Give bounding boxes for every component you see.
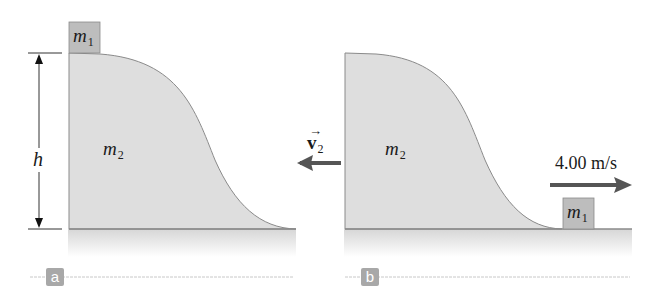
vector-arrow-icon: → <box>309 123 322 139</box>
height-arrow-down-icon <box>35 218 43 228</box>
velocity-block-arrow-icon <box>550 177 632 193</box>
block-m1-label-b: m1 <box>567 201 588 223</box>
ground-shade-a <box>68 229 296 257</box>
wedge-m2-b <box>345 53 562 229</box>
height-arrow-up-icon <box>35 54 43 64</box>
panel-a <box>28 22 296 277</box>
wedge-m2-label-a: m2 <box>103 138 124 160</box>
block-velocity-label: 4.00 m/s <box>555 153 617 174</box>
velocity-v2-label: → v2 <box>307 132 324 154</box>
panel-tag-a: a <box>46 268 64 286</box>
height-label: h <box>33 148 43 171</box>
velocity-v2-arrow-icon <box>297 155 341 171</box>
block-m1-label-a: m1 <box>73 25 94 47</box>
panel-tag-b: b <box>361 268 379 286</box>
ground-shade-b <box>344 229 632 257</box>
diagram-canvas <box>0 0 658 301</box>
wedge-m2-label-b: m2 <box>385 138 406 160</box>
